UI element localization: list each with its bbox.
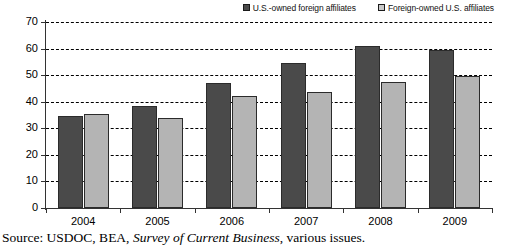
y-axis-tick-label: 40 bbox=[8, 95, 38, 107]
x-axis-tick bbox=[492, 208, 493, 213]
bar-2007-series2 bbox=[307, 92, 332, 208]
y-axis-tick-label: 50 bbox=[8, 68, 38, 80]
bar-2004-series2 bbox=[84, 114, 109, 208]
bar-group-2008 bbox=[343, 22, 417, 208]
x-axis-tick bbox=[418, 208, 419, 213]
y-axis-tick bbox=[41, 49, 46, 50]
bar-2005-series1 bbox=[132, 106, 157, 208]
x-axis-tick bbox=[195, 208, 196, 213]
x-axis-label-2009: 2009 bbox=[443, 215, 467, 227]
bar-group-2009 bbox=[418, 22, 492, 208]
x-axis-tick bbox=[46, 208, 47, 213]
legend-label: U.S.-owned foreign affiliates bbox=[253, 3, 356, 13]
x-axis-tick bbox=[343, 208, 344, 213]
bar-group-2007 bbox=[269, 22, 343, 208]
y-axis-tick-label: 60 bbox=[8, 42, 38, 54]
bar-2008-series1 bbox=[355, 46, 380, 208]
y-axis-tick-label: 30 bbox=[8, 121, 38, 133]
y-axis-tick bbox=[41, 102, 46, 103]
bar-chart: 010203040506070 bbox=[0, 14, 512, 214]
bar-2004-series1 bbox=[58, 116, 83, 208]
source-note: Source: USDOC, BEA, Survey of Current Bu… bbox=[2, 230, 365, 246]
bar-2009-series1 bbox=[429, 50, 454, 208]
chart-legend: U.S.-owned foreign affiliates Foreign-ow… bbox=[0, 1, 512, 14]
y-axis-tick-label: 10 bbox=[8, 174, 38, 186]
bar-2006-series2 bbox=[232, 96, 257, 208]
legend-label: Foreign-owned U.S. affiliates bbox=[388, 3, 494, 13]
x-axis-tick bbox=[269, 208, 270, 213]
x-axis-label-2008: 2008 bbox=[368, 215, 392, 227]
bar-2006-series1 bbox=[206, 83, 231, 208]
y-axis-tick bbox=[41, 128, 46, 129]
x-axis-label-2006: 2006 bbox=[220, 215, 244, 227]
legend-entry-foreign-owned: Foreign-owned U.S. affiliates bbox=[378, 3, 494, 13]
source-prefix: Source: USDOC, BEA, bbox=[2, 230, 133, 245]
bar-group-2005 bbox=[120, 22, 194, 208]
legend-entry-us-owned: U.S.-owned foreign affiliates bbox=[243, 3, 356, 13]
y-axis-tick-label: 20 bbox=[8, 148, 38, 160]
y-axis-tick-label: 0 bbox=[8, 201, 38, 213]
x-axis-label-2007: 2007 bbox=[294, 215, 318, 227]
legend-swatch-icon bbox=[378, 4, 385, 11]
y-axis-tick bbox=[41, 155, 46, 156]
y-axis-tick bbox=[41, 181, 46, 182]
bar-2009-series2 bbox=[455, 76, 480, 208]
bar-group-2006 bbox=[195, 22, 269, 208]
source-suffix: , various issues. bbox=[280, 230, 366, 245]
bar-2008-series2 bbox=[381, 82, 406, 208]
source-publication: Survey of Current Business bbox=[133, 230, 280, 245]
y-axis-tick bbox=[41, 22, 46, 23]
bar-2007-series1 bbox=[281, 63, 306, 208]
y-axis-tick bbox=[41, 75, 46, 76]
x-axis-label-2004: 2004 bbox=[71, 215, 95, 227]
y-axis-tick-label: 70 bbox=[8, 15, 38, 27]
bar-2005-series2 bbox=[158, 118, 183, 208]
x-axis-tick bbox=[120, 208, 121, 213]
legend-swatch-icon bbox=[243, 4, 250, 11]
bar-group-2004 bbox=[46, 22, 120, 208]
plot-area bbox=[46, 22, 492, 208]
x-axis-label-2005: 2005 bbox=[145, 215, 169, 227]
